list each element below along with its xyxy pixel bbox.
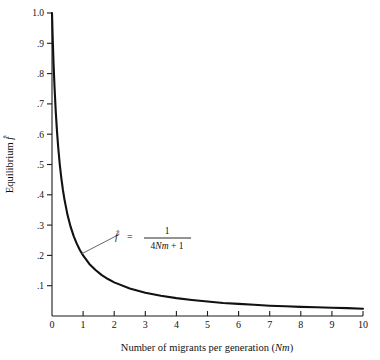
y-tick-label: .3 <box>37 221 44 231</box>
y-tick-label: .6 <box>37 130 44 140</box>
x-tick-label: 0 <box>50 319 55 330</box>
y-tick-label: .9 <box>37 39 44 49</box>
y-tick-label: .7 <box>37 99 44 109</box>
x-tick-label: 8 <box>298 319 303 330</box>
y-tick-label: 1.0 <box>32 8 44 18</box>
equation-numerator: 1 <box>165 226 170 236</box>
equation-lhs: f̂ <box>115 230 119 242</box>
x-tick-label: 5 <box>205 319 210 330</box>
y-axis-ticks: .1.2.3.4.5.6.7.8.91.0 <box>32 8 52 291</box>
x-axis-ticks: 012345678910 <box>50 311 369 330</box>
y-tick-label: .2 <box>37 251 44 261</box>
x-tick-label: 6 <box>236 319 241 330</box>
figure-canvas: .1.2.3.4.5.6.7.8.91.0 012345678910 f̂ = … <box>0 0 380 360</box>
x-tick-label: 10 <box>358 319 368 330</box>
annotation-leader-line <box>82 234 120 254</box>
x-tick-label: 1 <box>81 319 86 330</box>
equilibrium-inbreeding-chart: .1.2.3.4.5.6.7.8.91.0 012345678910 f̂ = … <box>0 0 380 360</box>
x-tick-label: 7 <box>267 319 272 330</box>
y-tick-label: .4 <box>37 190 44 200</box>
x-axis-title: Number of migrants per generation (Nm) <box>121 342 294 354</box>
x-tick-label: 9 <box>329 319 334 330</box>
y-tick-label: .1 <box>37 281 44 291</box>
x-tick-label: 3 <box>143 319 148 330</box>
equation-annotation: f̂ = 1 4Nm + 1 <box>115 226 191 251</box>
x-tick-label: 4 <box>174 319 179 330</box>
equation-denominator: 4Nm + 1 <box>151 241 184 251</box>
y-tick-label: .8 <box>37 69 44 79</box>
y-axis-title: Equilibrium f̂ <box>3 135 15 193</box>
y-tick-label: .5 <box>37 160 44 170</box>
data-curve <box>52 13 363 309</box>
equation-equals: = <box>127 231 133 242</box>
x-tick-label: 2 <box>112 319 117 330</box>
